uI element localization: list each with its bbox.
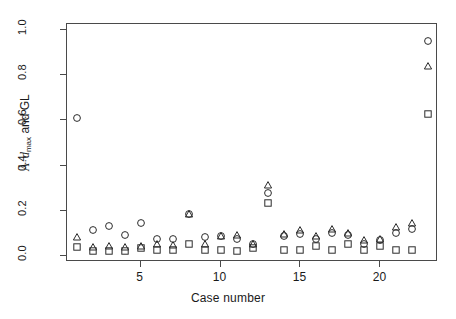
- data-point-triangle: [264, 180, 273, 189]
- data-point-triangle: [120, 243, 129, 252]
- data-point-circle: [264, 188, 273, 197]
- data-point-triangle: [392, 222, 401, 231]
- data-point-square: [72, 243, 81, 252]
- data-point-circle: [120, 230, 129, 239]
- y-axis-d-symbol: d: [18, 152, 32, 158]
- data-point-square: [216, 245, 225, 254]
- data-point-circle: [296, 229, 305, 238]
- data-point-triangle: [312, 231, 321, 240]
- data-point-triangle: [136, 242, 145, 251]
- x-axis-tick-label: 20: [364, 270, 394, 284]
- data-point-triangle: [168, 241, 177, 250]
- data-point-circle: [376, 236, 385, 245]
- data-point-circle: [312, 235, 321, 244]
- x-axis-tick: [220, 261, 221, 267]
- x-axis-tick: [140, 261, 141, 267]
- data-point-square: [328, 245, 337, 254]
- data-point-circle: [136, 219, 145, 228]
- data-point-triangle: [184, 210, 193, 219]
- x-axis-tick: [379, 261, 380, 267]
- y-axis-tick-label: 0.0: [0, 247, 44, 259]
- data-point-square: [152, 245, 161, 254]
- data-point-circle: [424, 37, 433, 46]
- data-point-triangle: [376, 235, 385, 244]
- data-point-square: [184, 239, 193, 248]
- data-point-square: [168, 245, 177, 254]
- x-axis-tick-label: 5: [125, 270, 155, 284]
- data-point-triangle: [104, 242, 113, 251]
- data-point-circle: [168, 235, 177, 244]
- data-point-square: [120, 246, 129, 255]
- data-points-layer: [67, 24, 436, 260]
- data-point-square: [232, 246, 241, 255]
- data-point-circle: [88, 226, 97, 235]
- data-point-square: [344, 239, 353, 248]
- data-point-triangle: [344, 228, 353, 237]
- y-axis-tick-label: 1.0: [0, 21, 44, 33]
- data-point-square: [424, 109, 433, 118]
- x-axis-tick: [299, 261, 300, 267]
- data-point-circle: [184, 210, 193, 219]
- data-point-triangle: [296, 226, 305, 235]
- plot-area: [66, 23, 437, 261]
- x-axis-tick-label: 10: [205, 270, 235, 284]
- data-point-square: [376, 242, 385, 251]
- data-point-triangle: [360, 236, 369, 245]
- y-axis-tail-text: and GL: [18, 94, 32, 133]
- data-point-triangle: [216, 231, 225, 240]
- data-point-square: [296, 245, 305, 254]
- data-point-triangle: [72, 233, 81, 242]
- data-point-square: [392, 245, 401, 254]
- data-point-triangle: [152, 239, 161, 248]
- data-point-triangle: [248, 239, 257, 248]
- data-point-circle: [392, 228, 401, 237]
- data-point-circle: [200, 233, 209, 242]
- data-point-triangle: [200, 239, 209, 248]
- data-point-square: [248, 244, 257, 253]
- x-axis-tick-label: 15: [284, 270, 314, 284]
- data-point-circle: [280, 231, 289, 240]
- y-axis-angstrom-symbol: Å: [18, 163, 32, 170]
- data-point-circle: [152, 235, 161, 244]
- data-point-square: [280, 245, 289, 254]
- data-point-circle: [344, 230, 353, 239]
- data-point-square: [104, 246, 113, 255]
- y-axis-d-subscript: max: [24, 137, 33, 152]
- scatter-plot-figure: 0.00.20.40.60.81.0 Å·dmax and GL Case nu…: [0, 0, 456, 319]
- x-axis-title: Case number: [0, 291, 456, 305]
- data-point-circle: [248, 239, 257, 248]
- data-point-circle: [216, 231, 225, 240]
- data-point-triangle: [88, 243, 97, 252]
- data-point-square: [360, 245, 369, 254]
- data-point-circle: [360, 239, 369, 248]
- data-point-triangle: [424, 61, 433, 70]
- data-point-circle: [408, 225, 417, 234]
- data-point-circle: [232, 235, 241, 244]
- data-point-square: [88, 246, 97, 255]
- y-axis-title: Å·dmax and GL: [18, 33, 33, 233]
- data-point-triangle: [408, 219, 417, 228]
- data-point-circle: [72, 114, 81, 123]
- data-point-triangle: [280, 229, 289, 238]
- data-point-square: [136, 244, 145, 253]
- y-axis-dot-operator: ·: [20, 158, 31, 163]
- data-point-square: [200, 245, 209, 254]
- data-point-triangle: [328, 225, 337, 234]
- data-point-triangle: [232, 230, 241, 239]
- data-point-circle: [104, 221, 113, 230]
- data-point-square: [408, 245, 417, 254]
- data-point-square: [264, 199, 273, 208]
- data-point-square: [312, 242, 321, 251]
- data-point-circle: [328, 228, 337, 237]
